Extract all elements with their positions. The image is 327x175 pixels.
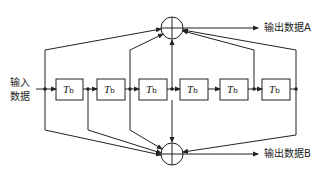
delay-label-2: Tb — [104, 83, 115, 97]
output-b-label: 输出数据B — [264, 148, 311, 160]
delay-label-6: Tb — [269, 83, 280, 97]
input-label-line2: 数据 — [10, 91, 30, 103]
delay-label-1: Tb — [63, 83, 74, 97]
delay-label-5: Tb — [227, 83, 238, 97]
delay-label-3: Tb — [146, 83, 157, 97]
output-a-label: 输出数据A — [264, 22, 311, 34]
delay-label-4: Tb — [187, 83, 198, 97]
input-label-line1: 输入 — [10, 77, 30, 89]
